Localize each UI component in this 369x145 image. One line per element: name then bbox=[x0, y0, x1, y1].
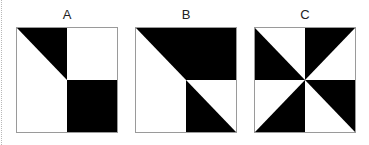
option-b-label: B bbox=[135, 7, 237, 23]
option-c-panel: C bbox=[254, 0, 356, 145]
option-c-pattern-icon bbox=[255, 28, 355, 132]
option-b-panel: B bbox=[135, 0, 237, 145]
option-c-tile bbox=[254, 27, 356, 133]
dotted-margin-line bbox=[1, 0, 2, 145]
option-a-pattern-icon bbox=[17, 28, 117, 132]
option-a-label: A bbox=[16, 7, 118, 23]
option-a-panel: A bbox=[16, 0, 118, 145]
option-c-label: C bbox=[254, 7, 356, 23]
option-b-tile bbox=[135, 27, 237, 133]
option-a-tile bbox=[16, 27, 118, 133]
option-b-pattern-icon bbox=[136, 28, 236, 132]
